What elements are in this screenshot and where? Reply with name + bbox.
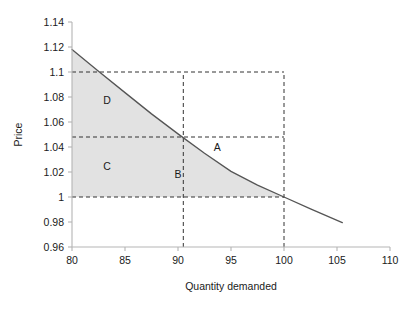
y-axis-ticks <box>68 22 72 247</box>
y-tick-label: 1.08 <box>44 91 65 103</box>
y-tick-label: 1 <box>58 191 64 203</box>
x-tick-label: 110 <box>382 254 399 266</box>
y-axis-title: Price <box>12 122 24 146</box>
region-label-a: A <box>214 141 221 153</box>
demand-curve-chart: 0.960.9811.021.041.061.081.11.121.14 808… <box>0 0 417 309</box>
y-tick-label: 0.96 <box>44 241 65 253</box>
y-tick-label: 1.14 <box>44 16 65 28</box>
x-axis-ticks <box>72 247 390 251</box>
x-tick-label: 100 <box>275 254 293 266</box>
chart-svg: 0.960.9811.021.041.061.081.11.121.14 808… <box>0 0 417 309</box>
x-tick-label: 85 <box>119 254 131 266</box>
x-tick-label: 105 <box>328 254 346 266</box>
region-label-b: B <box>174 168 181 180</box>
y-axis-tick-labels: 0.960.9811.021.041.061.081.11.121.14 <box>44 16 65 253</box>
y-tick-label: 0.98 <box>44 216 65 228</box>
region-label-d: D <box>103 94 111 106</box>
x-tick-label: 90 <box>172 254 184 266</box>
x-axis-tick-labels: 80859095100105110 <box>66 254 398 266</box>
y-tick-label: 1.04 <box>44 141 65 153</box>
x-tick-label: 80 <box>66 254 78 266</box>
y-tick-label: 1.02 <box>44 166 65 178</box>
y-tick-label: 1.12 <box>44 41 65 53</box>
x-axis-title: Quantity demanded <box>185 280 277 292</box>
x-tick-label: 95 <box>225 254 237 266</box>
region-label-c: C <box>103 160 111 172</box>
y-tick-label: 1.1 <box>49 66 64 78</box>
y-tick-label: 1.06 <box>44 116 65 128</box>
